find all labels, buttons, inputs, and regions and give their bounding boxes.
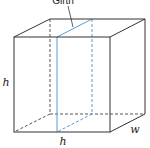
bottom-right-depth-edge	[110, 114, 145, 132]
girth-loop	[57, 19, 92, 132]
visible-edges	[14, 19, 145, 132]
top-left-depth-edge	[14, 19, 50, 37]
girth-top-diagonal	[57, 19, 92, 37]
hidden-edges	[14, 19, 145, 132]
width-label: w	[130, 123, 140, 136]
box-diagram: Girth h h w	[0, 0, 150, 148]
front-face	[14, 37, 110, 132]
girth-label: Girth	[52, 0, 74, 6]
bottom-left-depth-edge	[14, 114, 50, 132]
girth-leader-line	[68, 6, 73, 27]
length-label: h	[59, 135, 66, 148]
top-right-depth-edge	[110, 19, 145, 37]
height-label: h	[2, 76, 9, 89]
girth-bottom-diagonal	[57, 114, 92, 132]
